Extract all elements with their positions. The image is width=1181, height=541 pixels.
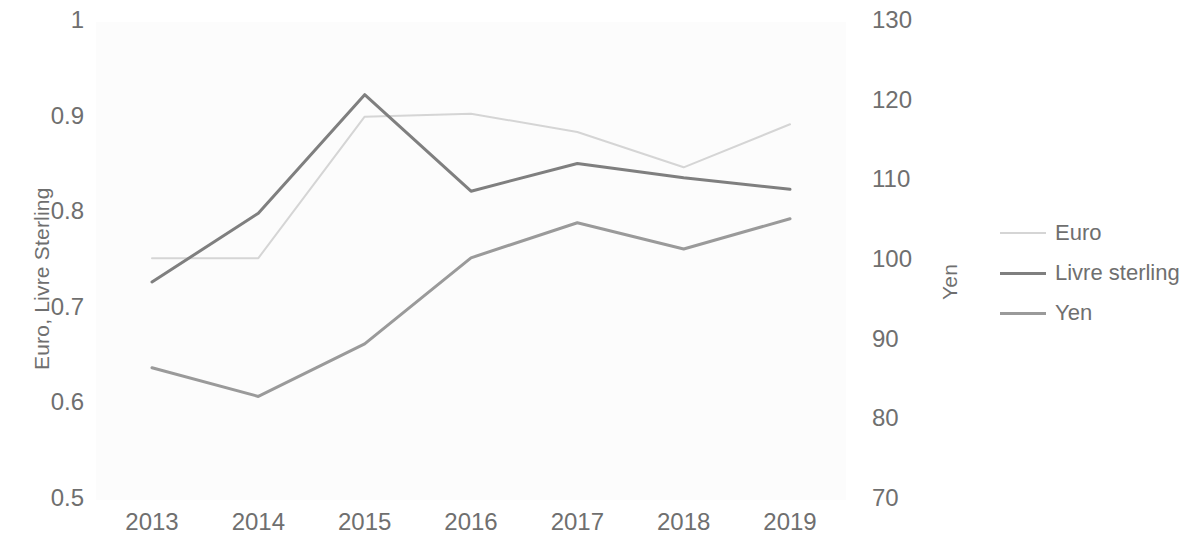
legend-item-euro[interactable]: Euro [1000, 213, 1181, 253]
y-tick-right-80: 80 [872, 404, 942, 432]
x-tick-2018: 2018 [624, 508, 744, 536]
y-tick-right-100: 100 [872, 245, 942, 273]
y-tick-left-0.7: 0.7 [14, 293, 84, 321]
y-tick-left-1: 1 [14, 6, 84, 34]
plot-area [96, 22, 846, 500]
chart-legend: EuroLivre sterlingYen [1000, 213, 1181, 333]
y-tick-right-130: 130 [872, 6, 942, 34]
y-tick-right-110: 110 [872, 165, 942, 193]
y-tick-left-0.9: 0.9 [14, 102, 84, 130]
x-tick-2016: 2016 [411, 508, 531, 536]
plot-lines [96, 22, 846, 500]
legend-item-yen[interactable]: Yen [1000, 293, 1181, 333]
y-tick-right-120: 120 [872, 86, 942, 114]
series-line-yen [152, 219, 790, 397]
legend-label: Euro [1055, 220, 1101, 246]
legend-swatch-icon [1000, 272, 1046, 275]
series-line-livre-sterling [152, 95, 790, 282]
y-tick-right-90: 90 [872, 325, 942, 353]
legend-swatch-icon [1000, 312, 1046, 315]
legend-swatch-icon [1000, 232, 1046, 234]
y-tick-left-0.8: 0.8 [14, 197, 84, 225]
x-tick-2019: 2019 [730, 508, 850, 536]
y-tick-left-0.6: 0.6 [14, 388, 84, 416]
line-chart: Euro, Livre Sterling Yen 0.50.60.70.80.9… [0, 0, 1181, 541]
series-line-euro [152, 114, 790, 258]
legend-label: Livre sterling [1055, 260, 1180, 286]
x-tick-2013: 2013 [92, 508, 212, 536]
y-tick-right-70: 70 [872, 484, 942, 512]
x-tick-2015: 2015 [305, 508, 425, 536]
legend-item-livre-sterling[interactable]: Livre sterling [1000, 253, 1181, 293]
x-tick-2017: 2017 [517, 508, 637, 536]
x-tick-2014: 2014 [198, 508, 318, 536]
legend-label: Yen [1055, 300, 1092, 326]
y-tick-left-0.5: 0.5 [14, 484, 84, 512]
